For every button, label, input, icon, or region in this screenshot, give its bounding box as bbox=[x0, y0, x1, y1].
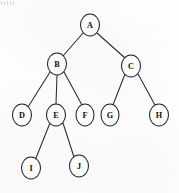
tree-edge-b-f bbox=[64, 72, 82, 105]
tree-node-h[interactable]: H bbox=[150, 104, 169, 126]
node-shape-e[interactable] bbox=[47, 104, 66, 126]
tree-edge-b-d bbox=[28, 72, 50, 107]
tree-node-j[interactable]: J bbox=[70, 155, 89, 177]
tree-node-d[interactable]: D bbox=[13, 104, 32, 126]
tree-diagram-canvas: ABCDEFGHIJ bbox=[0, 0, 179, 193]
tree-edge-e-j bbox=[63, 123, 74, 157]
tree-node-g[interactable]: G bbox=[101, 104, 119, 126]
tree-node-e[interactable]: E bbox=[47, 104, 66, 126]
tree-node-i[interactable]: I bbox=[22, 157, 41, 179]
tree-edge-c-g bbox=[113, 74, 125, 105]
tree-node-a[interactable]: A bbox=[81, 14, 100, 36]
node-shape-h[interactable] bbox=[150, 104, 169, 126]
edge-layer bbox=[28, 33, 155, 158]
node-shape-g[interactable] bbox=[101, 104, 119, 126]
node-shape-b[interactable] bbox=[48, 53, 67, 75]
tree-edge-a-b bbox=[63, 33, 83, 56]
tree-diagram: ABCDEFGHIJ bbox=[0, 0, 179, 193]
node-shape-i[interactable] bbox=[22, 157, 41, 179]
tree-edge-a-c bbox=[97, 33, 125, 58]
tree-edge-b-e bbox=[56, 75, 57, 104]
tree-node-c[interactable]: C bbox=[122, 55, 141, 77]
tree-node-b[interactable]: B bbox=[48, 53, 67, 75]
node-shape-c[interactable] bbox=[122, 55, 141, 77]
node-layer: ABCDEFGHIJ bbox=[13, 14, 169, 179]
tree-edge-e-i bbox=[36, 123, 50, 158]
tree-node-f[interactable]: F bbox=[76, 104, 94, 126]
node-shape-a[interactable] bbox=[81, 14, 100, 36]
node-shape-j[interactable] bbox=[70, 155, 89, 177]
node-shape-d[interactable] bbox=[13, 104, 32, 126]
node-shape-f[interactable] bbox=[76, 104, 94, 126]
tree-edge-c-h bbox=[138, 74, 155, 105]
scan-corner-artifact bbox=[1, 1, 15, 5]
